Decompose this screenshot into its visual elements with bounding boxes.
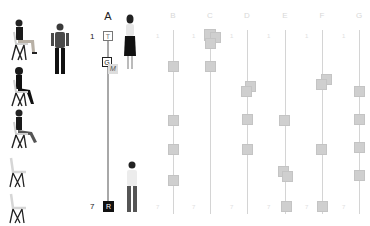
column-label-a: A xyxy=(104,10,111,22)
empty-chair-icon xyxy=(6,192,30,226)
row-number-start-c: 1 xyxy=(192,33,195,39)
row-number-start-b: 1 xyxy=(156,33,159,39)
gray-marker[interactable] xyxy=(282,171,293,182)
gray-marker[interactable] xyxy=(354,170,365,181)
gray-marker[interactable] xyxy=(168,144,179,155)
row-number-end: 7 xyxy=(90,202,94,211)
gray-marker[interactable] xyxy=(242,144,253,155)
gray-marker[interactable] xyxy=(317,201,328,212)
seated-person-icon xyxy=(4,18,44,66)
empty-chair-icon xyxy=(6,156,30,190)
column-label-c: C xyxy=(207,11,213,20)
gray-marker[interactable] xyxy=(354,142,365,153)
standing-person-icon xyxy=(48,22,72,78)
row-number-start: 1 xyxy=(90,32,94,41)
gray-marker[interactable] xyxy=(281,201,292,212)
track-f xyxy=(322,30,323,214)
row-number-start-e: 1 xyxy=(267,33,270,39)
column-label-e: E xyxy=(282,11,287,20)
seated-person-icon xyxy=(4,108,44,152)
gray-marker[interactable] xyxy=(316,144,327,155)
row-number-start-f: 1 xyxy=(305,33,308,39)
row-number-start-g: 1 xyxy=(342,33,345,39)
column-label-b: B xyxy=(170,11,175,20)
marker-r[interactable]: R xyxy=(103,201,114,212)
standing-woman-icon xyxy=(120,14,140,72)
row-number-end-g: 7 xyxy=(342,204,345,210)
column-label-d: D xyxy=(244,11,250,20)
row-number-end-c: 7 xyxy=(192,204,195,210)
row-number-end-b: 7 xyxy=(156,204,159,210)
gray-marker[interactable] xyxy=(242,114,253,125)
gray-marker[interactable] xyxy=(316,79,327,90)
track-c xyxy=(210,30,211,214)
column-label-g: G xyxy=(356,11,362,20)
gray-marker[interactable] xyxy=(205,38,216,49)
row-number-start-d: 1 xyxy=(230,33,233,39)
marker-t[interactable]: T xyxy=(103,31,113,41)
gray-marker[interactable] xyxy=(168,61,179,72)
gray-marker[interactable] xyxy=(168,115,179,126)
gray-marker[interactable] xyxy=(354,86,365,97)
row-number-end-d: 7 xyxy=(230,204,233,210)
seated-person-icon xyxy=(4,66,44,110)
row-number-end-e: 7 xyxy=(267,204,270,210)
gray-marker[interactable] xyxy=(354,114,365,125)
column-label-f: F xyxy=(320,11,325,20)
gray-marker[interactable] xyxy=(279,115,290,126)
gray-marker[interactable] xyxy=(168,175,179,186)
row-number-end-f: 7 xyxy=(305,204,308,210)
gray-marker[interactable] xyxy=(241,86,252,97)
gray-marker[interactable] xyxy=(205,61,216,72)
standing-man-icon xyxy=(122,160,142,216)
marker-m[interactable]: M xyxy=(108,64,118,74)
